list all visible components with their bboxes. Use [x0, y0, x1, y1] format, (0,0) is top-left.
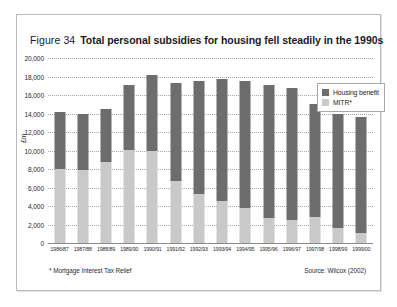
- x-axis-tick-label: 1987/88: [74, 246, 92, 252]
- bar-segment-mitr[interactable]: [147, 151, 158, 243]
- bar-group[interactable]: 1986/87: [48, 58, 71, 243]
- bar-group[interactable]: 1988/89: [94, 58, 117, 243]
- bar-group[interactable]: 1995/96: [257, 58, 280, 243]
- bar-stack[interactable]: [309, 104, 320, 243]
- bar-stack[interactable]: [170, 83, 181, 243]
- bar-stack[interactable]: [77, 114, 88, 243]
- figure-title: Figure 34Total personal subsidies for ho…: [30, 30, 375, 48]
- y-axis-tick-label: 2,000: [28, 221, 44, 228]
- y-axis-tick-label: 6,000: [28, 184, 44, 191]
- y-axis-tick-label: 8,000: [28, 166, 44, 173]
- bar-group[interactable]: 1991/92: [164, 58, 187, 243]
- x-axis-tick-label: 1992/93: [190, 246, 208, 252]
- bar-stack[interactable]: [263, 85, 274, 243]
- bar-segment-mitr[interactable]: [286, 220, 297, 243]
- bar-segment-housing-benefit[interactable]: [309, 104, 320, 217]
- x-axis-tick-label: 1995/96: [259, 246, 277, 252]
- bar-segment-mitr[interactable]: [333, 228, 344, 243]
- bar-segment-mitr[interactable]: [124, 150, 135, 243]
- gridline: [48, 243, 373, 244]
- bar-stack[interactable]: [333, 114, 344, 243]
- y-axis-tick-label: 4,000: [28, 203, 44, 210]
- bar-segment-mitr[interactable]: [356, 233, 367, 243]
- legend-swatch-icon-housing-benefit: [322, 89, 329, 96]
- bar-stack[interactable]: [356, 117, 367, 243]
- bar-stack[interactable]: [240, 81, 251, 243]
- x-axis-tick-label: 1990/91: [143, 246, 161, 252]
- x-axis-tick-label: 1997/98: [306, 246, 324, 252]
- x-axis-tick-label: 1998/99: [329, 246, 347, 252]
- bar-segment-mitr[interactable]: [54, 169, 65, 243]
- bar-segment-mitr[interactable]: [217, 201, 228, 243]
- bar-group[interactable]: 1989/90: [118, 58, 141, 243]
- bar-segment-housing-benefit[interactable]: [263, 85, 274, 218]
- x-axis-tick-label: 1991/92: [167, 246, 185, 252]
- bar-stack[interactable]: [286, 88, 297, 243]
- bar-segment-housing-benefit[interactable]: [77, 114, 88, 170]
- bar-segment-mitr[interactable]: [193, 194, 204, 243]
- x-axis-tick-label: 1986/87: [51, 246, 69, 252]
- bar-segment-housing-benefit[interactable]: [333, 114, 344, 228]
- x-axis-tick-label: 1996/97: [283, 246, 301, 252]
- bar-stack[interactable]: [124, 85, 135, 243]
- x-axis-tick-label: 1993/94: [213, 246, 231, 252]
- bar-stack[interactable]: [217, 79, 228, 243]
- bar-segment-mitr[interactable]: [240, 208, 251, 243]
- y-axis-tick-label: 12,000: [24, 129, 44, 136]
- y-axis-tick-label: 18,000: [24, 73, 44, 80]
- y-axis-tick-label: 20,000: [24, 55, 44, 62]
- bar-segment-housing-benefit[interactable]: [54, 112, 65, 169]
- figure-number: Figure 34: [30, 34, 75, 46]
- legend-item-mitr: MITR*: [322, 98, 379, 107]
- bar-segment-housing-benefit[interactable]: [217, 79, 228, 201]
- x-axis-tick-label: 1994/95: [236, 246, 254, 252]
- bar-group[interactable]: 1990/91: [141, 58, 164, 243]
- bar-group[interactable]: 1992/93: [187, 58, 210, 243]
- bar-segment-housing-benefit[interactable]: [147, 75, 158, 151]
- y-axis-tick-label: 0: [40, 240, 44, 247]
- bar-segment-housing-benefit[interactable]: [170, 83, 181, 181]
- bar-stack[interactable]: [101, 109, 112, 243]
- chart-legend: Housing benefit MITR*: [317, 83, 385, 112]
- bar-stack[interactable]: [193, 81, 204, 243]
- y-axis-tick-label: 10,000: [24, 147, 44, 154]
- figure-panel: Figure 34Total personal subsidies for ho…: [16, 14, 381, 291]
- legend-item-housing-benefit: Housing benefit: [322, 88, 379, 97]
- bar-group[interactable]: 1994/95: [234, 58, 257, 243]
- bar-segment-mitr[interactable]: [309, 217, 320, 243]
- bar-segment-housing-benefit[interactable]: [193, 81, 204, 194]
- bar-segment-housing-benefit[interactable]: [356, 117, 367, 233]
- bar-stack[interactable]: [54, 112, 65, 243]
- bar-segment-housing-benefit[interactable]: [286, 88, 297, 220]
- x-axis-tick-label: 1988/89: [97, 246, 115, 252]
- bar-segment-housing-benefit[interactable]: [124, 85, 135, 150]
- bar-segment-mitr[interactable]: [170, 181, 181, 243]
- legend-swatch-icon-mitr: [322, 99, 329, 106]
- bar-segment-housing-benefit[interactable]: [240, 81, 251, 207]
- bar-segment-housing-benefit[interactable]: [101, 109, 112, 162]
- x-axis-tick-label: 1999/00: [352, 246, 370, 252]
- bar-group[interactable]: 1996/97: [280, 58, 303, 243]
- bar-group[interactable]: 1987/88: [71, 58, 94, 243]
- bar-segment-mitr[interactable]: [101, 162, 112, 243]
- figure-source: Source: Wilcox (2002): [304, 267, 366, 274]
- legend-label-mitr: MITR*: [333, 99, 352, 106]
- y-axis-tick-label: 14,000: [24, 110, 44, 117]
- bar-stack[interactable]: [147, 75, 158, 243]
- y-axis-tick-label: 16,000: [24, 92, 44, 99]
- bar-segment-mitr[interactable]: [77, 170, 88, 243]
- legend-label-housing-benefit: Housing benefit: [333, 89, 379, 96]
- bar-group[interactable]: 1993/94: [211, 58, 234, 243]
- bar-segment-mitr[interactable]: [263, 218, 274, 243]
- x-axis-tick-label: 1989/90: [120, 246, 138, 252]
- figure-title-text: Total personal subsidies for housing fel…: [80, 34, 383, 46]
- figure-footnote: * Mortgage Interest Tax Relief: [49, 267, 132, 274]
